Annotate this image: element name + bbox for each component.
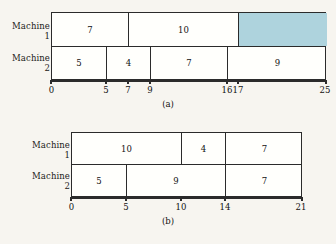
row-label-line1: Machine xyxy=(26,140,70,150)
x-axis-tick-label: 9 xyxy=(147,85,152,95)
gantt-task-block: 5 xyxy=(52,47,107,79)
gantt-task-block: 4 xyxy=(107,47,151,79)
figure-a: Machine 1 Machine 2 710 5479 0579161725 … xyxy=(0,0,336,120)
x-axis-tick xyxy=(224,197,225,201)
figure-b: Machine 1 Machine 2 1047 597 05101421 (b… xyxy=(0,120,336,244)
gantt-task-block: 5 xyxy=(72,165,127,196)
x-axis-tick xyxy=(105,80,106,84)
x-axis-tick-label: 16 xyxy=(222,85,233,95)
gantt-task-block: 7 xyxy=(226,165,303,196)
row-label-line1: Machine xyxy=(6,53,50,63)
x-axis-tick-label: 5 xyxy=(103,85,108,95)
x-axis-tick-label: 14 xyxy=(220,202,231,212)
row-label-machine-1: Machine 1 xyxy=(6,21,50,41)
gantt-task-block: 7 xyxy=(151,47,228,79)
x-axis-tick xyxy=(149,80,150,84)
gantt-row-machine-2: 597 xyxy=(72,165,301,196)
gantt-row-machine-1: 710 xyxy=(52,13,325,47)
x-axis-tick-label: 5 xyxy=(123,202,128,212)
gantt-grid-a: 710 5479 xyxy=(51,12,326,80)
x-axis-tick xyxy=(325,80,326,84)
x-axis-tick-label: 17 xyxy=(233,85,244,95)
row-label-line2: 2 xyxy=(6,63,50,73)
x-axis-tick xyxy=(226,80,227,84)
row-label-machine-2: Machine 2 xyxy=(26,171,70,191)
gantt-task-block: 7 xyxy=(52,13,129,46)
x-axis-tick-label: 10 xyxy=(176,202,187,212)
x-axis-tick xyxy=(180,197,181,201)
x-axis-tick-label: 25 xyxy=(320,85,331,95)
x-axis-tick-label: 21 xyxy=(296,202,307,212)
gantt-row-machine-2: 5479 xyxy=(52,47,325,79)
x-axis-tick xyxy=(127,80,128,84)
gantt-grid-b: 1047 597 xyxy=(71,132,302,197)
gantt-task-block: 9 xyxy=(228,47,327,79)
x-axis-tick xyxy=(237,80,238,84)
row-label-machine-2: Machine 2 xyxy=(6,53,50,73)
x-axis-tick-label: 0 xyxy=(49,85,54,95)
figure-caption-a: (a) xyxy=(138,99,198,109)
gantt-task-block: 9 xyxy=(127,165,226,196)
row-label-machine-1: Machine 1 xyxy=(26,140,70,160)
x-axis-tick-label: 0 xyxy=(69,202,74,212)
x-axis-tick xyxy=(50,80,51,84)
figure-caption-b: (b) xyxy=(138,216,198,226)
row-label-line2: 1 xyxy=(26,150,70,160)
gantt-row-machine-1: 1047 xyxy=(72,133,301,165)
x-axis-tick-label: 7 xyxy=(125,85,130,95)
gantt-task-block: 10 xyxy=(72,133,182,164)
gantt-idle-block xyxy=(239,13,327,46)
gantt-task-block: 4 xyxy=(182,133,226,164)
x-axis-tick xyxy=(70,197,71,201)
x-axis-tick xyxy=(125,197,126,201)
row-label-line2: 1 xyxy=(6,31,50,41)
row-label-line2: 2 xyxy=(26,181,70,191)
row-label-line1: Machine xyxy=(6,21,50,31)
gantt-task-block: 7 xyxy=(226,133,303,164)
row-label-line1: Machine xyxy=(26,171,70,181)
x-axis-tick xyxy=(301,197,302,201)
gantt-task-block: 10 xyxy=(129,13,239,46)
